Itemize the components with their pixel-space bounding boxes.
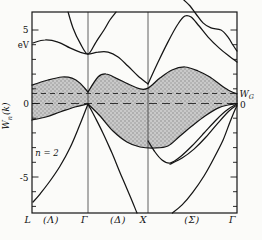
band-top-entrant-band	[184, 0, 237, 51]
xaxis-label-gamma1: Γ	[80, 214, 88, 225]
xaxis-label-x: X	[139, 214, 148, 225]
figure-root: 5 eV 0 -5 Wn(k) WG 0 n = 2 L (Λ) Γ (Δ) X…	[0, 0, 262, 240]
n2-annotation: n = 2	[35, 148, 58, 158]
band-upper-band	[33, 40, 148, 84]
xaxis-label-lambda: (Λ)	[43, 214, 59, 225]
right-zero-label: 0	[240, 100, 246, 110]
ytick-label-minus5: -5	[20, 173, 29, 183]
xaxis-label-L: L	[24, 214, 32, 225]
band-structure-svg: 5 eV 0 -5 Wn(k) WG 0 n = 2 L (Λ) Γ (Δ) X…	[0, 0, 262, 240]
xaxis-label-gamma2: Γ	[228, 214, 236, 225]
band-gamma-parabola	[68, 12, 116, 54]
yaxis-title: Wn(k)	[1, 102, 14, 129]
xaxis-label-sigma: (Σ)	[184, 214, 200, 225]
ytick-label-0: 0	[23, 99, 29, 109]
yaxis-unit-label: eV	[18, 40, 30, 50]
xaxis-label-delta: (Δ)	[110, 214, 126, 225]
ytick-label-5: 5	[23, 25, 29, 35]
